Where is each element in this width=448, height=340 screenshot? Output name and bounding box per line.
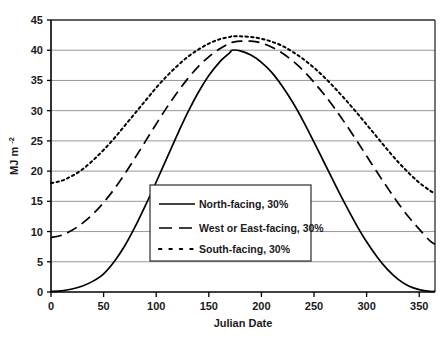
x-axis-title: Julian Date (214, 317, 273, 329)
x-tick-label-150: 150 (200, 300, 218, 312)
x-tick-label-350: 350 (410, 300, 428, 312)
chart-figure: 051015202530354045 050100150200250300350… (0, 0, 448, 340)
legend-label-2: South-facing, 30% (199, 243, 291, 255)
x-tick-label-200: 200 (252, 300, 270, 312)
x-tick-label-300: 300 (357, 300, 375, 312)
x-tick-label-100: 100 (147, 300, 165, 312)
x-tick-label-50: 50 (97, 300, 109, 312)
y-tick-label-40: 40 (31, 44, 43, 56)
y-tick-label-15: 15 (31, 195, 43, 207)
line-chart: 051015202530354045 050100150200250300350… (0, 0, 448, 340)
x-tick-label-250: 250 (305, 300, 323, 312)
y-tick-label-20: 20 (31, 165, 43, 177)
chart-background (0, 0, 448, 340)
chart-legend: North-facing, 30%West or East-facing, 30… (150, 185, 324, 261)
y-tick-label-45: 45 (31, 14, 43, 26)
y-tick-label-25: 25 (31, 135, 43, 147)
y-tick-label-5: 5 (37, 256, 43, 268)
y-tick-label-0: 0 (37, 286, 43, 298)
legend-label-0: North-facing, 30% (199, 198, 289, 210)
y-tick-label-30: 30 (31, 105, 43, 117)
y-tick-label-35: 35 (31, 74, 43, 86)
x-tick-label-0: 0 (48, 300, 54, 312)
legend-label-1: West or East-facing, 30% (199, 222, 324, 234)
y-tick-label-10: 10 (31, 226, 43, 238)
